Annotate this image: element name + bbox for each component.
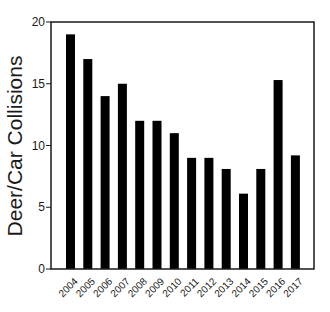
bar-2017 [291, 155, 300, 269]
y-tick-label: 20 [32, 15, 46, 29]
bar-2006 [101, 96, 110, 269]
y-axis-ticks: 05101520 [32, 15, 51, 276]
x-tick-label: 2017 [281, 275, 305, 299]
bar-2009 [153, 121, 162, 269]
x-axis-ticks: 2004200520062007200820092010201120122013… [56, 275, 305, 299]
bar-2016 [274, 80, 283, 269]
bar-2007 [118, 84, 127, 269]
y-tick-label: 15 [32, 77, 46, 91]
bar-2008 [135, 121, 144, 269]
bar-2014 [239, 194, 248, 269]
bar-2004 [66, 34, 75, 269]
bar-2005 [83, 59, 92, 269]
bars-group [66, 34, 300, 269]
y-tick-label: 10 [32, 139, 46, 153]
y-tick-label: 0 [38, 262, 45, 276]
bar-2012 [204, 158, 213, 269]
bar-2013 [222, 169, 231, 269]
bar-2015 [256, 169, 265, 269]
bar-2010 [170, 133, 179, 269]
y-tick-label: 5 [38, 200, 45, 214]
bar-chart: 05101520 2004200520062007200820092010201… [0, 0, 330, 312]
bar-2011 [187, 158, 196, 269]
